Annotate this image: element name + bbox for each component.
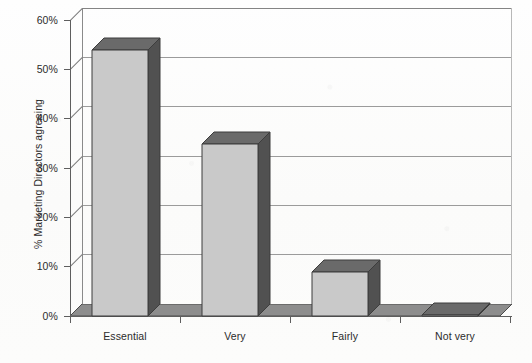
y-tick-10	[64, 266, 70, 267]
y-axis-label-60: 60%	[22, 14, 58, 26]
bar-essential[interactable]	[92, 38, 164, 318]
y-tick-40	[64, 118, 70, 119]
x-tick-2	[290, 317, 291, 323]
x-tick-1	[180, 317, 181, 323]
y-tick-50	[64, 69, 70, 70]
back-wall-right-edge	[511, 8, 512, 304]
chart-screenshot: 60% 50% 40% 30% 20% 10% 0% % Marketing D…	[0, 0, 532, 363]
x-axis-label-not-very: Not very	[410, 330, 500, 342]
bar-chart: 60% 50% 40% 30% 20% 10% 0% % Marketing D…	[0, 0, 532, 363]
y-tick-20	[64, 217, 70, 218]
depth-connector-40	[70, 106, 83, 119]
y-axis-title: % Marketing Directors agreeing	[32, 64, 44, 284]
x-axis-label-essential: Essential	[80, 330, 170, 342]
depth-connector-30	[70, 156, 83, 169]
x-axis-label-fairly: Fairly	[300, 330, 390, 342]
bar-fairly[interactable]	[312, 260, 384, 318]
depth-connector-60	[70, 8, 83, 21]
y-axis-line	[70, 20, 71, 316]
y-axis-label-0: 0%	[22, 310, 58, 322]
x-axis-label-very: Very	[190, 330, 280, 342]
gridline-60	[82, 8, 511, 9]
y-tick-30	[64, 168, 70, 169]
x-tick-3	[400, 317, 401, 323]
depth-connector-10	[70, 254, 83, 267]
x-tick-0	[70, 317, 71, 323]
bar-not-very[interactable]	[422, 303, 494, 318]
x-tick-4	[510, 317, 511, 323]
bar-very[interactable]	[202, 132, 274, 318]
depth-connector-50	[70, 57, 83, 70]
depth-connector-20	[70, 205, 83, 218]
y-tick-60	[64, 20, 70, 21]
